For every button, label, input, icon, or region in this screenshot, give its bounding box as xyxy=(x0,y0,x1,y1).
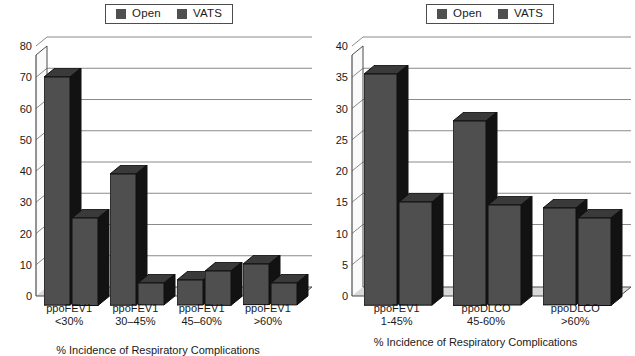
y-axis-ticks-right: 0510152025303540 xyxy=(326,46,348,296)
x-axis-category-label: ppoFEV145–60% xyxy=(169,302,235,328)
legend-swatch-vats xyxy=(498,9,508,19)
x-axis-category-label: ppoFEV130–45% xyxy=(102,302,168,328)
chart-caption-left: % Incidence of Respiratory Complications xyxy=(0,344,316,356)
legend-swatch-open xyxy=(116,9,126,19)
bar-vats xyxy=(399,193,443,305)
y-axis-tick-label: 60 xyxy=(20,103,32,115)
plot-area-left xyxy=(36,46,301,296)
bar-vats xyxy=(138,274,175,305)
y-axis-tick-label: 25 xyxy=(336,134,348,146)
y-axis-tick-label: 35 xyxy=(336,71,348,83)
y-axis-tick-label: 10 xyxy=(20,259,32,271)
category-label-line: 30–45% xyxy=(102,315,168,328)
bar-vats xyxy=(205,262,242,305)
y-axis-tick-label: 0 xyxy=(342,290,348,302)
chart-panel-left: Open VATS 01020304050607080 ppoFEV1<30%p… xyxy=(0,0,316,354)
x-axis-category-label: ppoDLCO45-60% xyxy=(441,302,530,328)
y-axis-tick-label: 0 xyxy=(26,290,32,302)
category-label-line: ppoFEV1 xyxy=(169,302,235,315)
y-axis-tick-label: 40 xyxy=(336,40,348,52)
y-axis-tick-label: 30 xyxy=(20,196,32,208)
category-label-line: ppoFEV1 xyxy=(102,302,168,315)
bar-shape xyxy=(488,196,533,306)
category-label-line: 45-60% xyxy=(441,315,530,328)
bar-vats xyxy=(578,209,622,306)
bar-vats xyxy=(72,209,109,306)
bar-shape xyxy=(72,209,110,307)
chart-panel-right: Open VATS 0510152025303540 ppoFEV11-45%p… xyxy=(316,0,635,354)
legend-left: Open VATS xyxy=(105,4,233,24)
category-label-line: 45–60% xyxy=(169,315,235,328)
y-axis-tick-label: 40 xyxy=(20,165,32,177)
category-label-line: ppoFEV1 xyxy=(235,302,301,315)
y-axis-tick-label: 80 xyxy=(20,40,32,52)
category-label-line: ppoDLCO xyxy=(441,302,530,315)
y-axis-tick-label: 50 xyxy=(20,134,32,146)
legend-label-vats: VATS xyxy=(514,8,543,20)
x-axis-category-label: ppoFEV1>60% xyxy=(235,302,301,328)
legend-label-open: Open xyxy=(132,8,161,20)
bar-shape xyxy=(578,209,623,307)
y-axis-ticks-left: 01020304050607080 xyxy=(10,46,32,296)
x-axis-category-label: ppoDLCO>60% xyxy=(531,302,620,328)
x-axis-category-label: ppoFEV1<30% xyxy=(36,302,102,328)
y-axis-tick-label: 20 xyxy=(336,165,348,177)
legend-swatch-vats xyxy=(177,9,187,19)
category-label-line: 1-45% xyxy=(352,315,441,328)
bars-layer xyxy=(36,46,301,296)
category-label-line: <30% xyxy=(36,315,102,328)
category-label-line: ppoFEV1 xyxy=(352,302,441,315)
bar-shape xyxy=(205,262,243,306)
y-axis-tick-label: 10 xyxy=(336,228,348,240)
legend-item-open: Open xyxy=(116,8,161,20)
x-axis-category-label: ppoFEV11-45% xyxy=(352,302,441,328)
bar-shape xyxy=(399,193,444,306)
legend-item-vats: VATS xyxy=(498,8,543,20)
legend-label-vats: VATS xyxy=(193,8,222,20)
legend-label-open: Open xyxy=(453,8,482,20)
y-axis-tick-label: 30 xyxy=(336,103,348,115)
category-label-line: ppoDLCO xyxy=(531,302,620,315)
chart-caption-right: % Incidence of Respiratory Complications xyxy=(316,336,635,348)
legend-swatch-open xyxy=(437,9,447,19)
y-axis-tick-label: 15 xyxy=(336,196,348,208)
bars-layer xyxy=(352,46,620,296)
category-label-line: >60% xyxy=(531,315,620,328)
y-axis-tick-label: 70 xyxy=(20,71,32,83)
y-axis-tick-label: 20 xyxy=(20,228,32,240)
legend-item-vats: VATS xyxy=(177,8,222,20)
bar-vats xyxy=(271,274,308,305)
legend-item-open: Open xyxy=(437,8,482,20)
category-label-line: >60% xyxy=(235,315,301,328)
y-axis-tick-label: 5 xyxy=(342,259,348,271)
plot-area-right xyxy=(352,46,620,296)
category-label-line: ppoFEV1 xyxy=(36,302,102,315)
bar-vats xyxy=(488,196,532,305)
legend-right: Open VATS xyxy=(426,4,554,24)
